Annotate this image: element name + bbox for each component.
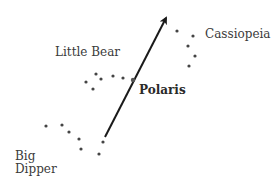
label-big-dipper-line2: Dipper xyxy=(15,162,57,176)
label-little-bear: Little Bear xyxy=(55,45,120,59)
label-cassiopeia: Cassiopeia xyxy=(205,27,271,41)
label-big-dipper-line1: Big xyxy=(15,149,35,163)
little-bear-stars xyxy=(84,72,124,90)
polaris-star xyxy=(131,78,135,82)
label-polaris: Polaris xyxy=(139,83,186,97)
cassiopeia-stars xyxy=(175,29,196,67)
pointer-arrow xyxy=(105,18,166,137)
big-dipper-stars xyxy=(44,123,104,155)
